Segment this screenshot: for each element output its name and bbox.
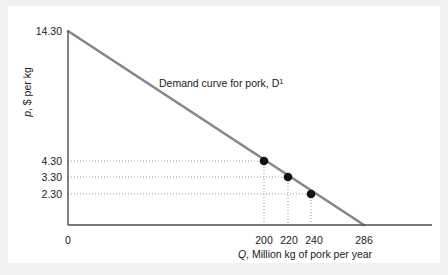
demand-curve-chart: 14.30 4.30 3.30 2.30 0 200 220 240 286 p… (8, 6, 440, 263)
demand-curve-label: Demand curve for pork, D1 (159, 77, 283, 90)
x-tick-label-240: 240 (305, 234, 323, 246)
y-axis-title: p, $ per kg (21, 67, 33, 118)
demand-curve-label-text: Demand curve for pork, (159, 77, 272, 89)
data-point-220-330[interactable] (284, 173, 293, 182)
figure-card: 14.30 4.30 3.30 2.30 0 200 220 240 286 p… (8, 6, 440, 263)
data-point-200-430[interactable] (260, 157, 269, 166)
y-tick-label-330: 3.30 (42, 171, 63, 183)
y-tick-label-230: 2.30 (42, 188, 63, 200)
y-tick-label-430: 4.30 (42, 155, 63, 167)
x-axis-title-rest: , Million kg of pork per year (246, 248, 373, 260)
x-axis-title: Q, Million kg of pork per year (238, 248, 373, 260)
x-tick-label-220: 220 (280, 234, 298, 246)
x-tick-label-200: 200 (255, 234, 273, 246)
demand-curve-label-superscript: 1 (279, 77, 283, 86)
chart-svg: 14.30 4.30 3.30 2.30 0 200 220 240 286 p… (8, 6, 440, 263)
x-tick-label-0: 0 (65, 234, 71, 246)
x-tick-label-286: 286 (355, 234, 373, 246)
data-point-240-230[interactable] (307, 190, 316, 199)
x-axis-title-symbol: Q (238, 248, 246, 260)
quantity-guide-lines (264, 161, 311, 225)
y-axis-title-rest: , $ per kg (21, 67, 33, 111)
y-tick-label-1430: 14.30 (36, 25, 62, 37)
demand-curve-line (68, 31, 364, 225)
